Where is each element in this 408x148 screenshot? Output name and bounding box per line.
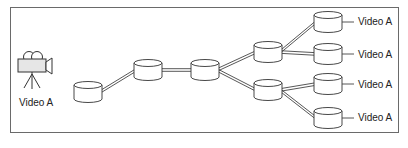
distribution-tree bbox=[0, 0, 408, 148]
link-line bbox=[280, 85, 316, 91]
nodes bbox=[74, 12, 342, 129]
link-line bbox=[280, 51, 316, 53]
server-node-icon bbox=[134, 60, 162, 81]
output-label-4: Video A bbox=[358, 112, 392, 123]
server-node-icon bbox=[314, 74, 342, 95]
link-line bbox=[280, 91, 316, 119]
link-line bbox=[280, 83, 316, 89]
server-node-icon bbox=[314, 12, 342, 33]
link-line bbox=[280, 89, 316, 117]
server-node-icon bbox=[314, 108, 342, 129]
server-node-icon bbox=[191, 60, 219, 81]
video-camera-icon bbox=[18, 52, 52, 90]
output-label-1: Video A bbox=[358, 16, 392, 27]
link-line bbox=[100, 69, 136, 91]
link-line bbox=[217, 53, 256, 71]
link-line bbox=[217, 69, 256, 89]
output-label-3: Video A bbox=[358, 79, 392, 90]
output-lines bbox=[342, 22, 354, 118]
server-node-icon bbox=[74, 82, 102, 103]
output-label-2: Video A bbox=[358, 49, 392, 60]
link-line bbox=[217, 51, 256, 69]
server-node-icon bbox=[314, 44, 342, 65]
link-line bbox=[280, 53, 316, 55]
server-node-icon bbox=[254, 42, 282, 63]
link-line bbox=[280, 21, 316, 51]
link-line bbox=[217, 71, 256, 91]
link-line bbox=[100, 71, 136, 93]
server-node-icon bbox=[254, 80, 282, 101]
source-label: Video A bbox=[19, 97, 53, 108]
link-line bbox=[280, 23, 316, 53]
